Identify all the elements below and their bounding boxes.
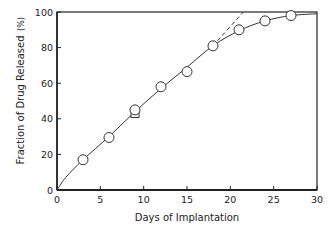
data-point bbox=[260, 16, 270, 26]
plot-frame bbox=[57, 12, 317, 190]
x-tick-label: 10 bbox=[138, 194, 150, 205]
data-point bbox=[208, 41, 218, 51]
y-tick-label: 0 bbox=[47, 185, 53, 196]
drug-release-chart: 051015202530020406080100 Days of Implant… bbox=[0, 0, 336, 234]
y-axis-label: Fraction of Drug Released bbox=[15, 35, 26, 164]
data-point bbox=[78, 155, 88, 165]
data-point bbox=[286, 11, 296, 21]
y-tick-label: 60 bbox=[41, 78, 53, 89]
y-tick-label: 20 bbox=[41, 149, 53, 160]
data-point bbox=[234, 25, 244, 35]
x-tick-label: 15 bbox=[181, 194, 193, 205]
y-tick-label: 80 bbox=[41, 42, 53, 53]
y-axis-unit: (%) bbox=[17, 17, 26, 31]
x-tick-label: 30 bbox=[311, 194, 323, 205]
plot-area: 051015202530020406080100 bbox=[35, 7, 323, 206]
chart-canvas: 051015202530020406080100 Days of Implant… bbox=[0, 0, 336, 234]
x-axis-label: Days of Implantation bbox=[135, 212, 239, 223]
y-axis-label-group: Fraction of Drug Released (%) bbox=[15, 17, 26, 164]
fit-curve bbox=[57, 14, 317, 190]
data-point bbox=[130, 105, 140, 115]
x-tick-label: 25 bbox=[268, 194, 280, 205]
y-tick-label: 40 bbox=[41, 113, 53, 124]
data-point bbox=[182, 67, 192, 77]
data-point bbox=[156, 82, 166, 92]
x-tick-label: 0 bbox=[54, 194, 60, 205]
data-point bbox=[104, 132, 114, 142]
x-tick-label: 5 bbox=[97, 194, 103, 205]
x-tick-label: 20 bbox=[224, 194, 236, 205]
data-series bbox=[57, 11, 317, 190]
y-tick-label: 100 bbox=[35, 7, 53, 18]
